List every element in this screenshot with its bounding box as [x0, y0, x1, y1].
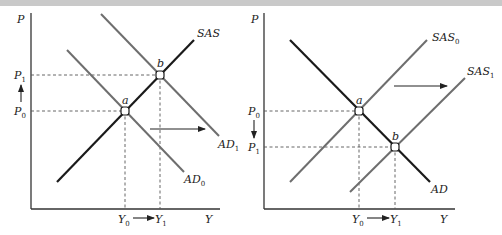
right-y-axis-label: P [250, 13, 259, 26]
left-ad1-label: AD1 [217, 138, 239, 153]
right-ad-label: AD [430, 183, 448, 196]
right-sas1-label: SAS1 [467, 65, 494, 80]
left-point-b-label: b [157, 57, 164, 70]
left-y-axis-label: P [16, 13, 25, 26]
left-ad0-label: AD0 [183, 173, 205, 188]
right-point-b-marker [391, 143, 399, 151]
right-y1-label: Y1 [390, 213, 402, 228]
right-sas1-curve [350, 78, 465, 192]
right-p1-label: P1 [247, 141, 260, 156]
ad-as-diagrams: P Y SAS AD0 AD1 a b P1 P0 Y0 Y1 [0, 0, 502, 235]
left-x-axis-label: Y [205, 213, 214, 226]
left-point-b-marker [156, 71, 164, 79]
left-point-a-marker [121, 107, 129, 115]
right-p0-label: P0 [247, 105, 260, 120]
left-p0-label: P0 [13, 105, 26, 120]
left-panel: P Y SAS AD0 AD1 a b P1 P0 Y0 Y1 [13, 13, 239, 228]
left-sas-label: SAS [197, 27, 220, 40]
right-point-a-marker [355, 107, 363, 115]
right-x-axis-label: Y [440, 213, 449, 226]
left-p1-label: P1 [13, 69, 26, 84]
right-panel: P Y SAS0 SAS1 AD a b P0 P1 Y0 Y1 [247, 13, 494, 228]
left-point-a-label: a [122, 94, 129, 107]
right-sas0-label: SAS0 [432, 31, 459, 46]
left-y0-label: Y0 [118, 213, 130, 228]
right-point-a-label: a [356, 94, 363, 107]
left-y1-label: Y1 [155, 213, 167, 228]
right-y0-label: Y0 [352, 213, 364, 228]
right-point-b-label: b [392, 130, 399, 143]
